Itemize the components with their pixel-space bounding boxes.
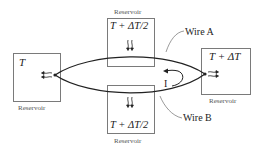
heat-flow-left-icon: [42, 72, 53, 79]
current-arrow: [166, 70, 183, 86]
heat-flow-bottom-icon: [127, 97, 134, 108]
heat-flow-top-icon: [127, 40, 134, 51]
junction-left: [53, 73, 56, 76]
heat-flow-right-icon: [208, 71, 219, 78]
wire-a-leader: [166, 31, 184, 52]
junction-right: [203, 72, 206, 75]
thermocouple-diagram: T Reservoir Reservoir T + ΔT/2 T + ΔT/2 …: [0, 0, 258, 153]
current-arrowhead-icon: [163, 69, 168, 74]
wire-a: [55, 57, 205, 75]
wires-svg: [0, 0, 258, 153]
wire-b-leader: [160, 96, 182, 118]
